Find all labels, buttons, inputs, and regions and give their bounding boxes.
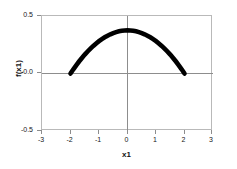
x-tick-2 — [184, 130, 185, 134]
x-axis-title: x1 — [41, 150, 212, 159]
x-ticklabel-2: -1 — [86, 136, 110, 144]
x-ticklabel-4: 1 — [143, 136, 167, 144]
y-axis-title: f(x1) — [14, 39, 23, 99]
y-tick-0.0 — [37, 72, 41, 73]
y-tick-0.5 — [37, 15, 41, 16]
y-ticklabel-0: 0.5 — [7, 11, 33, 19]
parabola-path — [71, 30, 185, 73]
y-tick--0.5 — [37, 130, 41, 131]
x-ticklabel-5: 2 — [172, 136, 196, 144]
x-tick-1 — [155, 130, 156, 134]
x-tick-3 — [211, 130, 212, 134]
x-ticklabel-1: -2 — [58, 136, 82, 144]
x-tick--1 — [98, 130, 99, 134]
chart-figure: -3 -2 -1 0 1 2 3 0.5 0.0 -0.5 x1 f(x1) — [0, 0, 237, 169]
data-series-curve — [42, 16, 213, 131]
x-ticklabel-3: 0 — [115, 136, 139, 144]
y-ticklabel-2: -0.5 — [7, 126, 33, 134]
x-ticklabel-6: 3 — [199, 136, 223, 144]
x-tick--2 — [70, 130, 71, 134]
plot-area — [41, 15, 212, 130]
x-tick-0 — [127, 130, 128, 134]
x-tick--3 — [41, 130, 42, 134]
x-ticklabel-0: -3 — [29, 136, 53, 144]
